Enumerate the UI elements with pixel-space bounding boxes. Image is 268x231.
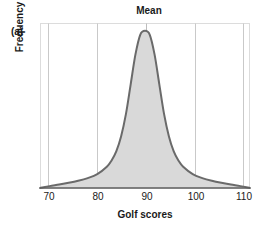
distribution-area bbox=[40, 31, 250, 188]
figure-panel-a: (a) Mean Frequency 70 80 90 100 bbox=[0, 0, 268, 231]
x-axis-label: Golf scores bbox=[40, 209, 250, 220]
x-tick-label: 70 bbox=[34, 191, 64, 202]
x-tick-label: 90 bbox=[132, 191, 162, 202]
x-tick-label: 100 bbox=[181, 191, 211, 202]
x-tick-label: 80 bbox=[83, 191, 113, 202]
x-tick-label: 110 bbox=[229, 191, 259, 202]
